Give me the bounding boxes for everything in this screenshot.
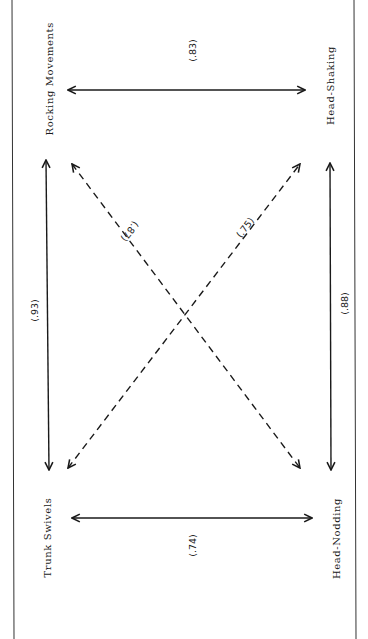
node-head-shaking: Head-Shaking xyxy=(325,46,336,126)
arrow-rocking-trunk xyxy=(46,160,49,470)
dashed-arrow-headshaking-trunk xyxy=(68,164,300,468)
arrow-headshaking-headnodding xyxy=(330,163,331,470)
correlation-diagram: Rocking Movements Head-Shaking Trunk Swi… xyxy=(0,0,368,639)
correlation-rocking-headshaking: (.83) xyxy=(187,31,198,71)
diagram-lines xyxy=(0,0,368,639)
left-border-line xyxy=(12,0,14,639)
correlation-rocking-trunk: (.93) xyxy=(29,291,40,331)
correlation-trunk-headnodding: (.74) xyxy=(187,526,198,566)
right-border-line xyxy=(354,0,356,639)
correlation-headshaking-headnodding: (.88) xyxy=(339,284,350,324)
node-trunk-swivels: Trunk Swivels xyxy=(42,496,53,580)
node-rocking-movements: Rocking Movements xyxy=(44,26,55,136)
node-head-nodding: Head-Nodding xyxy=(331,497,342,581)
